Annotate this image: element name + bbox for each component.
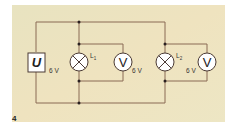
circuit-diagram: U 6 V L1 V 6 V L2 V 6 V [0, 0, 237, 132]
figure-number: 4 [12, 114, 16, 123]
voltage-source-value: 6 V [49, 67, 59, 74]
voltmeter-2-reading: 6 V [186, 67, 196, 74]
voltage-source-label: U [32, 55, 42, 70]
voltmeter-1-symbol: V [119, 55, 128, 70]
voltmeter-2-symbol: V [203, 55, 212, 70]
voltmeter-1-reading: 6 V [132, 67, 142, 74]
